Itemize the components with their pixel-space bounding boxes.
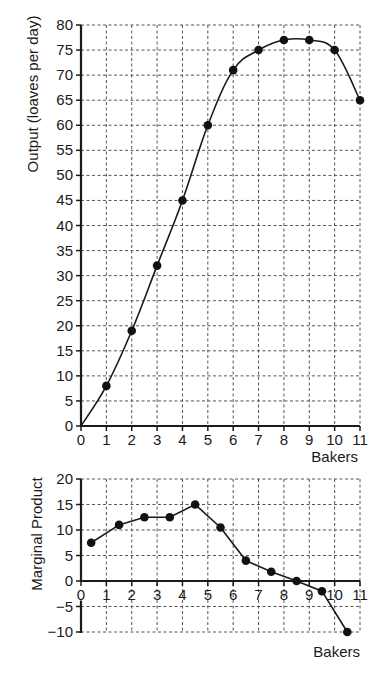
x-tick-label: 8 — [280, 586, 288, 603]
x-tick-label: 8 — [280, 431, 288, 448]
y-tick-label: 5 — [65, 392, 73, 409]
y-tick-label: 30 — [56, 267, 73, 284]
data-point — [305, 36, 314, 45]
x-tick-label: 3 — [153, 431, 161, 448]
data-point — [178, 196, 187, 205]
x-tick-label: 7 — [254, 431, 262, 448]
data-point — [140, 513, 149, 522]
data-point — [216, 523, 225, 532]
y-tick-label: 20 — [56, 470, 73, 487]
y-tick-label: 0 — [65, 417, 73, 434]
data-point — [343, 628, 352, 637]
x-tick-label: 1 — [102, 586, 110, 603]
y-tick-label: 55 — [56, 141, 73, 158]
y-tick-label: 15 — [56, 496, 73, 513]
y-tick-label: 0 — [65, 572, 73, 589]
y-tick-label: 35 — [56, 242, 73, 259]
x-tick-label: 10 — [326, 431, 343, 448]
y-tick-label: 70 — [56, 66, 73, 83]
y-tick-label: 50 — [56, 166, 73, 183]
y-tick-label: −5 — [56, 598, 73, 615]
y-tick-label: −10 — [48, 623, 73, 640]
total-output-chart: 0510152025303540455055606570758001234567… — [56, 16, 367, 448]
y-tick-label: 45 — [56, 191, 73, 208]
data-point — [102, 382, 111, 391]
data-point — [87, 538, 96, 547]
x-tick-label: 6 — [229, 431, 237, 448]
y-tick-label: 15 — [56, 342, 73, 359]
x-tick-label: 4 — [178, 431, 186, 448]
data-point — [356, 96, 365, 105]
y-tick-label: 10 — [56, 367, 73, 384]
data-point — [242, 556, 251, 565]
y-tick-label: 65 — [56, 91, 73, 108]
x-tick-label: 0 — [77, 586, 85, 603]
y-tick-label: 20 — [56, 317, 73, 334]
data-point — [330, 46, 339, 55]
x-tick-label: 5 — [204, 586, 212, 603]
data-point — [267, 568, 276, 577]
y-tick-label: 40 — [56, 217, 73, 234]
x-tick-label: 5 — [204, 431, 212, 448]
y-tick-label: 60 — [56, 116, 73, 133]
y-tick-label: 5 — [65, 547, 73, 564]
data-point — [153, 261, 162, 270]
x-tick-label: 7 — [254, 586, 262, 603]
top-x-axis-label: Bakers — [311, 448, 358, 465]
data-point — [292, 577, 301, 586]
x-tick-label: 0 — [77, 431, 85, 448]
y-tick-label: 25 — [56, 292, 73, 309]
x-tick-label: 11 — [352, 431, 368, 448]
data-point — [127, 326, 136, 335]
x-tick-label: 2 — [128, 431, 136, 448]
data-point — [318, 587, 327, 596]
x-tick-label: 1 — [102, 431, 110, 448]
y-tick-label: 75 — [56, 41, 73, 58]
data-point — [115, 521, 124, 530]
data-point — [204, 121, 213, 130]
data-point — [280, 36, 289, 45]
x-tick-label: 4 — [178, 586, 186, 603]
charts: 0510152025303540455055606570758001234567… — [0, 0, 386, 674]
marginal-product-chart: −10−50510152001234567891011 — [48, 470, 368, 640]
series-line — [81, 39, 360, 426]
y-tick-label: 80 — [56, 16, 73, 33]
x-tick-label: 9 — [305, 431, 313, 448]
x-tick-label: 10 — [326, 586, 343, 603]
x-tick-label: 11 — [352, 586, 368, 603]
data-point — [165, 513, 174, 522]
x-tick-label: 9 — [305, 586, 313, 603]
bottom-y-axis-label: Marginal Product — [28, 476, 45, 590]
data-point — [191, 500, 200, 509]
data-point — [254, 46, 263, 55]
x-tick-label: 6 — [229, 586, 237, 603]
top-y-axis-label: Output (loaves per day) — [24, 16, 41, 173]
bottom-x-axis-label: Bakers — [313, 643, 360, 660]
x-tick-label: 3 — [153, 586, 161, 603]
y-tick-label: 10 — [56, 521, 73, 538]
x-tick-label: 2 — [128, 586, 136, 603]
data-point — [229, 66, 238, 75]
